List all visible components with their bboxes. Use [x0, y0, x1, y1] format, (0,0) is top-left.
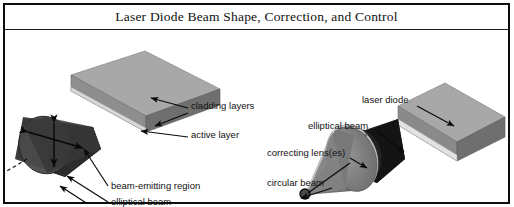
label-cladding-layers: cladding layers — [191, 101, 254, 111]
label-elliptical-beam-right: elliptical beam — [308, 121, 368, 131]
diagram-artboard: cladding layers active layer beam-emitti… — [5, 31, 508, 203]
page-title: Laser Diode Beam Shape, Correction, and … — [115, 9, 397, 25]
label-text: active layer — [191, 129, 239, 140]
label-text: laser diode — [362, 94, 408, 105]
label-text: elliptical beam — [111, 196, 171, 207]
label-text: cladding layers — [191, 100, 254, 111]
label-text: elliptical beam — [308, 120, 368, 131]
label-beam-emitting-region: beam-emitting region — [111, 181, 200, 191]
label-correcting-lenses: correcting lens(es) — [267, 148, 345, 158]
diagram-svg — [5, 31, 508, 203]
label-circular-beam: circular beam — [267, 178, 324, 188]
left-diode-slab — [71, 51, 220, 132]
label-text: correcting lens(es) — [267, 147, 345, 158]
figure-root: Laser Diode Beam Shape, Correction, and … — [0, 0, 514, 207]
left-elliptical-beam — [7, 110, 101, 180]
right-diode-slab — [398, 83, 505, 161]
label-text: beam-emitting region — [111, 180, 200, 191]
label-elliptical-beam-left: elliptical beam — [111, 197, 171, 207]
label-text: circular beam — [267, 177, 324, 188]
figure-title-bar: Laser Diode Beam Shape, Correction, and … — [5, 5, 508, 30]
label-laser-diode: laser diode — [362, 95, 408, 105]
label-active-layer: active layer — [191, 130, 239, 140]
